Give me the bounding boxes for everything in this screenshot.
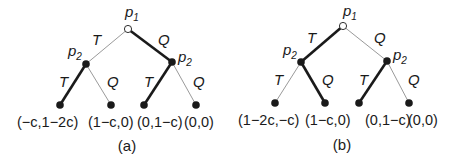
leaf-node bbox=[107, 101, 115, 109]
branch-label-root-right: Q bbox=[158, 31, 170, 48]
game-tree-b: p1 p2 p2 T Q T Q T Q (1−2c,−c) (1−c,0) (… bbox=[238, 2, 438, 153]
payoff-2: (1−c,0) bbox=[88, 114, 134, 130]
p2-left-node bbox=[82, 60, 90, 68]
p2-left-label: p2 bbox=[282, 41, 297, 61]
leaf-node bbox=[140, 101, 148, 109]
branch-label-left-left: T bbox=[274, 71, 285, 88]
payoff-2: (1−c,0) bbox=[305, 112, 351, 128]
root-node bbox=[339, 22, 346, 29]
payoff-4: (0,0) bbox=[408, 112, 438, 128]
caption-b: (b) bbox=[333, 136, 351, 153]
branch-label-left-right: Q bbox=[107, 73, 119, 90]
branch-label-right-left: T bbox=[144, 73, 155, 90]
caption-a: (a) bbox=[118, 137, 136, 154]
payoff-3: (0,1−c) bbox=[137, 114, 183, 130]
leaf-node bbox=[321, 99, 329, 107]
leaf-node bbox=[192, 101, 200, 109]
p2-right-label: p2 bbox=[177, 48, 192, 68]
leaf-node bbox=[271, 99, 279, 107]
p2-left-label: p2 bbox=[67, 42, 82, 62]
branch-label-left-right: Q bbox=[322, 71, 334, 88]
root-node bbox=[124, 25, 131, 32]
game-tree-a: p1 p2 p2 T Q T Q T Q (−c,1−2c) (1−c,0) (… bbox=[17, 3, 214, 154]
payoff-4: (0,0) bbox=[184, 114, 214, 130]
branch-label-left-left: T bbox=[59, 73, 70, 90]
leaf-node bbox=[405, 99, 413, 107]
branch-label-right-right: Q bbox=[193, 73, 205, 90]
payoff-1: (1−2c,−c) bbox=[238, 112, 299, 128]
branch-label-root-right: Q bbox=[374, 29, 386, 46]
p2-right-label: p2 bbox=[392, 46, 407, 66]
root-player-label: p1 bbox=[342, 2, 357, 22]
branch-label-right-right: Q bbox=[408, 71, 420, 88]
leaf-node bbox=[56, 101, 64, 109]
branch-label-root-left: T bbox=[307, 29, 318, 46]
root-player-label: p1 bbox=[124, 3, 139, 23]
game-trees-figure: p1 p2 p2 T Q T Q T Q (−c,1−2c) (1−c,0) (… bbox=[0, 0, 457, 162]
edge-right-right bbox=[387, 61, 409, 103]
payoff-3: (0,1−c) bbox=[365, 112, 411, 128]
branch-label-right-left: T bbox=[359, 71, 370, 88]
branch-label-root-left: T bbox=[92, 31, 103, 48]
p2-right-node bbox=[383, 57, 391, 65]
payoff-1: (−c,1−2c) bbox=[17, 114, 78, 130]
p2-right-node bbox=[168, 58, 176, 66]
leaf-node bbox=[355, 99, 363, 107]
p2-left-node bbox=[297, 58, 305, 66]
